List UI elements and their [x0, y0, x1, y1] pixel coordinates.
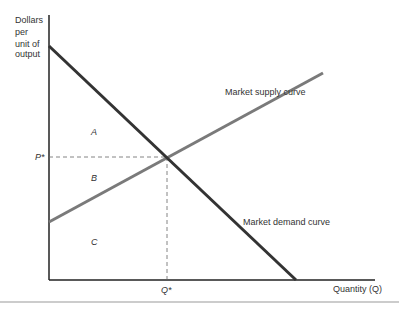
y-label-1: Dollars: [15, 15, 44, 25]
region-b: B: [91, 173, 97, 183]
region-c: C: [91, 237, 98, 247]
y-label-3: unit of: [15, 39, 40, 49]
demand-curve: [49, 46, 296, 280]
y-label-4: output: [15, 49, 41, 59]
y-label-2: per: [15, 27, 28, 37]
region-a: A: [90, 127, 97, 137]
supply-demand-chart: Dollars per unit of output Market supply…: [0, 0, 399, 314]
supply-label: Market supply curve: [225, 87, 306, 97]
x-label: Quantity (Q): [333, 284, 382, 294]
q-star-label: Q*: [161, 285, 172, 295]
demand-label: Market demand curve: [243, 217, 330, 227]
p-star-label: P*: [35, 152, 45, 162]
